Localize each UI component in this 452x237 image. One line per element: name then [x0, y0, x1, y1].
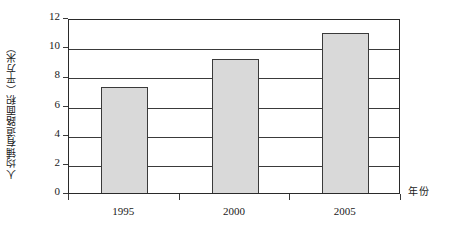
x-axis-tick-mark: [68, 194, 69, 200]
y-axis-tick-label: 10: [49, 40, 60, 51]
y-axis-tick-label: 4: [55, 128, 61, 139]
x-axis-tick-label: 1995: [112, 205, 134, 217]
x-axis-tick-mark: [400, 194, 401, 200]
y-axis-tick-label: 6: [55, 99, 61, 110]
y-axis-tick-label: 2: [55, 157, 61, 168]
plot-area: [68, 19, 400, 194]
x-axis-tick-label: 2000: [223, 205, 245, 217]
x-axis-title: 年份: [408, 186, 429, 198]
x-axis-tick-mark: [179, 194, 180, 200]
bar: [101, 87, 148, 193]
y-axis-tick-label: 12: [49, 11, 60, 22]
y-axis-title: 人均铺有道路面积（平方米）: [6, 42, 28, 179]
x-axis-tick-label: 2005: [334, 205, 356, 217]
bar: [212, 59, 259, 193]
bar: [322, 33, 369, 193]
chart-screenshot: 121086420 人均铺有道路面积（平方米） 199520002005 年份: [0, 0, 452, 237]
y-axis-tick-label: 8: [55, 69, 61, 80]
x-axis-tick-mark: [289, 194, 290, 200]
y-axis-tick-label: 0: [55, 186, 61, 197]
